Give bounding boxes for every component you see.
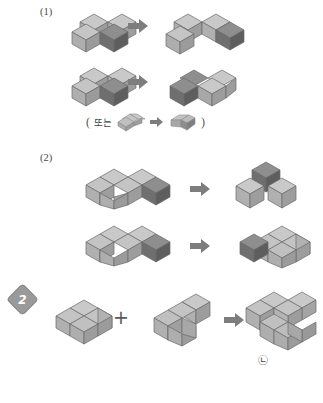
shape-2a-source [74, 165, 180, 217]
result-label-circled: ㉡ [258, 352, 268, 367]
shape-2a-result [228, 160, 308, 218]
shape-problem-result [234, 290, 322, 358]
section-label-2: (2) [40, 152, 52, 163]
block-arrow-row-1a [128, 19, 148, 33]
block-arrow-row-1b [128, 75, 148, 89]
block-arrow-row-2b [190, 239, 210, 253]
close-paren: ) [201, 115, 205, 130]
open-paren: ( [86, 115, 90, 130]
small-block-arrow [150, 117, 163, 127]
alt-note-result-shape [167, 112, 197, 132]
problem-number-badge: 2 [6, 283, 39, 316]
worksheet-page: (1) [0, 0, 323, 403]
block-arrow-row-2a [190, 182, 210, 196]
alt-note-row: ( 또는 [86, 112, 205, 132]
alt-note-text: 또는 [94, 115, 112, 129]
plus-operator: + [113, 308, 129, 327]
shape-1b-result [166, 62, 252, 112]
shape-2b-result [222, 222, 318, 274]
problem-number-text: 2 [11, 288, 34, 311]
shape-1a-result [166, 6, 252, 56]
alt-note-source-shape [116, 112, 146, 132]
shape-2b-source [74, 222, 180, 274]
shape-addend-b [142, 290, 218, 352]
section-label-1: (1) [40, 6, 52, 17]
